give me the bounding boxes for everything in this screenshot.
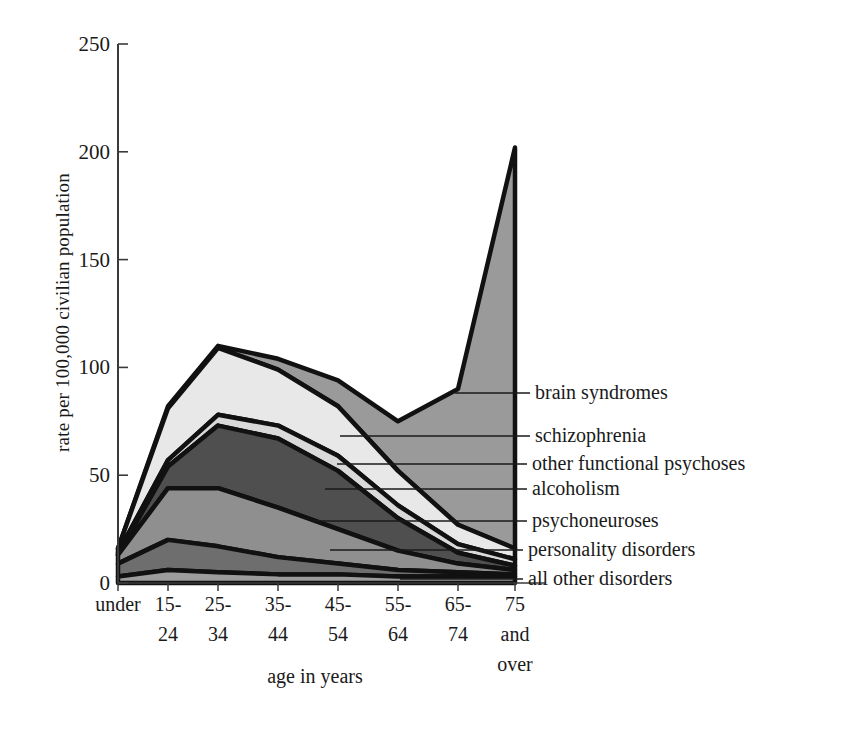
chart-background (0, 0, 845, 733)
legend-label-other-functional-psychoses: other functional psychoses (532, 452, 745, 475)
y-tick-label: 250 (79, 32, 111, 56)
y-tick-label: 200 (79, 140, 111, 164)
x-tick-label-75-and-over: 75 (505, 593, 525, 615)
y-tick-label: 150 (79, 248, 111, 272)
x-tick-label-35-44: 35- (265, 593, 292, 615)
legend-label-personality-disorders: personality disorders (528, 538, 695, 561)
x-tick-label-25-34: 34 (208, 623, 228, 645)
x-tick-label-65-74: 65- (445, 593, 472, 615)
x-tick-label-35-44: 44 (268, 623, 288, 645)
x-axis-title: age in years (267, 665, 363, 688)
y-tick-label: 100 (79, 355, 111, 379)
x-tick-label-55-64: 64 (388, 623, 408, 645)
x-tick-label-under-15: under (95, 593, 141, 615)
legend-label-all-other-disorders: all other disorders (528, 567, 673, 589)
y-tick-label: 0 (100, 571, 111, 595)
legend-label-alcoholism: alcoholism (532, 477, 620, 499)
x-tick-label-25-34: 25- (205, 593, 232, 615)
x-tick-label-15-24: 15- (155, 593, 182, 615)
legend-label-psychoneuroses: psychoneuroses (532, 509, 659, 532)
stacked-area-chart: 050100150200250 under15-2425-3435-4445-5… (0, 0, 845, 733)
x-tick-label-65-74: 74 (448, 623, 468, 645)
x-tick-label-55-64: 55- (385, 593, 412, 615)
x-tick-label-75-and-over: and (501, 623, 530, 645)
figure-root: 050100150200250 under15-2425-3435-4445-5… (0, 0, 845, 733)
x-tick-label-15-24: 24 (158, 623, 178, 645)
legend-label-schizophrenia: schizophrenia (535, 424, 646, 447)
x-tick-label-45-54: 54 (328, 623, 348, 645)
x-tick-label-75-and-over: over (497, 653, 533, 675)
y-axis-title: rate per 100,000 civilian population (52, 173, 74, 452)
x-tick-label-45-54: 45- (325, 593, 352, 615)
legend-label-brain-syndromes: brain syndromes (535, 381, 668, 404)
y-tick-label: 50 (89, 463, 110, 487)
